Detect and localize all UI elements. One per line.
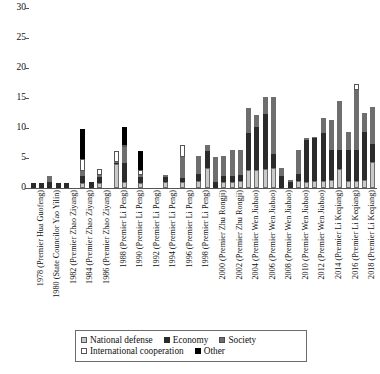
bar [213, 157, 218, 188]
chart-legend: National defenseEconomySocietyInternatio… [75, 330, 307, 362]
bar [312, 137, 317, 188]
bar-segment [180, 157, 185, 179]
bar-segment [312, 138, 317, 181]
bar-segment [254, 170, 259, 188]
bar-segment [138, 151, 143, 170]
x-tick-label: 1996 (Premier Li Peng) [186, 190, 194, 268]
bar-segment [296, 181, 301, 188]
bar-segment [337, 169, 342, 188]
bar-segment [362, 132, 367, 180]
bar-segment [263, 97, 268, 114]
bar-segment [263, 114, 268, 169]
bar-segment [362, 180, 367, 188]
legend-row: International cooperationOther [81, 346, 301, 356]
bar-segment [230, 150, 235, 176]
y-tick-label: 5 [0, 153, 26, 163]
legend-swatch-icon [164, 337, 170, 343]
bar [246, 108, 251, 188]
bar [304, 138, 309, 188]
bar-segment [346, 132, 351, 151]
bar [163, 175, 168, 188]
bar-segment [370, 144, 375, 162]
bar-segment [180, 145, 185, 157]
x-tick-label: 2018 (Premier Li Keqiang) [368, 190, 376, 279]
bar-segment [205, 168, 210, 188]
y-tick-label: 20 [0, 63, 26, 73]
bar [288, 180, 293, 188]
bar [238, 150, 243, 188]
bar [196, 156, 201, 188]
bar-segment [279, 168, 284, 176]
bar [47, 176, 52, 188]
bar-segment [354, 181, 359, 188]
y-tick-label: 30 [0, 3, 26, 13]
legend-item[interactable]: Other [195, 346, 225, 356]
bar-segment [271, 154, 276, 168]
x-tick-label: 1992 (Premier Li Peng) [153, 190, 161, 268]
bar [122, 127, 127, 188]
x-tick-label: 2004 (Premier Wen Jiabao) [252, 190, 260, 279]
bar [180, 145, 185, 188]
bar [337, 101, 342, 188]
bar-segment [114, 151, 119, 161]
bar-segment [254, 127, 259, 170]
bar-segment [122, 147, 127, 163]
bar-segment [337, 150, 342, 169]
x-tick-label: 2002 (Premier Zhu Rongji) [236, 190, 244, 279]
bar-segment [370, 107, 375, 144]
bar [80, 129, 85, 188]
legend-label: Economy [173, 335, 209, 345]
x-tick-label: 1986 (Premier Zhao Ziyang) [103, 190, 111, 284]
bar [114, 151, 119, 188]
bar-segment [321, 181, 326, 188]
x-tick-label: 1988 (Premier Li Peng) [120, 190, 128, 268]
bar-segment [370, 162, 375, 188]
y-axis: 051015202530 [0, 0, 29, 196]
bar-segment [362, 113, 367, 132]
legend-item[interactable]: Economy [164, 335, 209, 345]
bar-segment [271, 97, 276, 154]
bar-segment [279, 176, 284, 188]
bar-segment [346, 181, 351, 188]
bar-segment [321, 133, 326, 180]
bar-segment [80, 129, 85, 159]
bar-segment [321, 118, 326, 134]
bar [354, 84, 359, 188]
x-tick-label: 2016 (Premier Li Keqiang) [352, 190, 360, 279]
bar [254, 115, 259, 188]
bar-segment [354, 150, 359, 181]
legend-item[interactable]: National defense [81, 335, 153, 345]
x-tick-label: 1990 (Premier Li Peng) [136, 190, 144, 268]
bar-segment [196, 156, 201, 174]
legend-row: National defenseEconomySociety [81, 335, 301, 345]
legend-label: National defense [90, 335, 153, 345]
bar [296, 150, 301, 188]
legend-label: Other [204, 346, 225, 356]
bar-segment [221, 156, 226, 176]
bar-segment [196, 174, 201, 181]
bar [362, 113, 367, 188]
y-tick-label: 25 [0, 33, 26, 43]
x-tick-label: 1984 (Premier Zhao Ziyang) [86, 190, 94, 284]
x-tick-label: 2012 (Premier Wen Jiabao) [318, 190, 326, 279]
bar-segment [346, 150, 351, 181]
bar-segment [312, 181, 317, 188]
bar [263, 97, 268, 188]
legend-item[interactable]: Society [219, 335, 256, 345]
bar-segment [196, 181, 201, 188]
bar-segment [296, 174, 301, 181]
legend-swatch-icon [219, 337, 225, 343]
stacked-bar-chart: 051015202530 1978 (Premier Hua Guofeng)1… [0, 0, 380, 374]
legend-label: Society [228, 335, 256, 345]
bar [346, 132, 351, 188]
bar-segment [246, 170, 251, 188]
x-tick-label: 2006 (Premier Wen Jiabao) [269, 190, 277, 279]
bar-segment [246, 108, 251, 133]
bar-segment [354, 90, 359, 151]
legend-item[interactable]: International cooperation [81, 346, 184, 356]
x-axis-labels: 1978 (Premier Hua Guofeng)1980 (State Co… [29, 190, 377, 320]
bar-segment [296, 150, 301, 175]
x-tick-label: 1980 (State Councilor Yao Yilin) [53, 190, 61, 298]
x-tick-label: 1978 (Premier Hua Guofeng) [37, 190, 45, 286]
bar-segment [213, 157, 218, 182]
